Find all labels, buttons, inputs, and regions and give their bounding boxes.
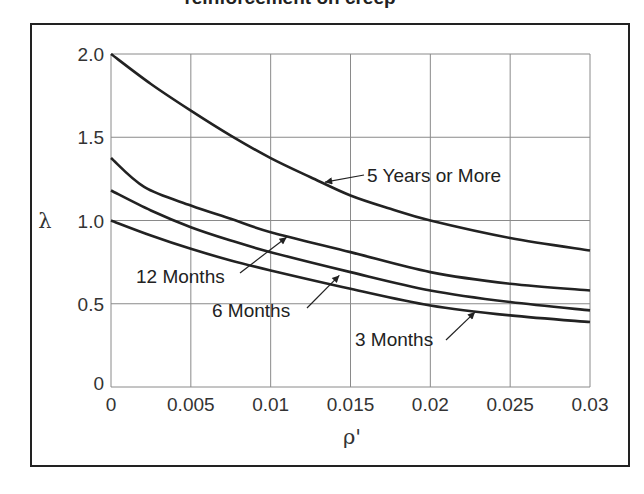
- annotation-label: 5 Years or More: [367, 165, 501, 186]
- x-tick-label: 0.005: [167, 394, 215, 415]
- y-axis-label: λ: [38, 209, 51, 233]
- x-tick-label: 0: [106, 394, 117, 415]
- y-tick-label: 2.0: [78, 44, 104, 65]
- chart-plot: 00.0050.010.0150.020.0250.0300.51.01.52.…: [0, 0, 644, 494]
- x-tick-label: 0.01: [252, 394, 289, 415]
- annotation-arrow: [446, 312, 475, 340]
- x-tick-label: 0.02: [412, 394, 449, 415]
- x-tick-label: 0.015: [327, 394, 375, 415]
- y-tick-label: 1.5: [78, 127, 104, 148]
- axes: 00.0050.010.0150.020.0250.0300.51.01.52.…: [78, 44, 609, 415]
- annotation-label: 6 Months: [212, 300, 290, 321]
- x-tick-label: 0.025: [486, 394, 534, 415]
- y-tick-label: 0.5: [78, 294, 104, 315]
- annotation-arrow: [325, 175, 364, 182]
- annotation-label: 3 Months: [355, 329, 433, 350]
- y-tick-label: 0: [93, 373, 104, 394]
- x-axis-label: ρ': [343, 425, 361, 449]
- y-tick-label: 1.0: [78, 211, 104, 232]
- annotation-label: 12 Months: [136, 266, 225, 287]
- x-tick-label: 0.03: [572, 394, 609, 415]
